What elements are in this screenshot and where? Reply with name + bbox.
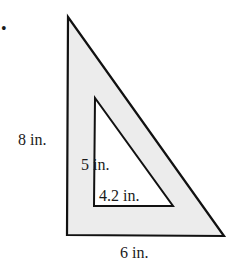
outer-base-label: 6 in. (120, 244, 148, 261)
triangle-diagram: • 8 in. 6 in. 5 in. 4.2 in. (0, 0, 233, 275)
inner-base-label: 4.2 in. (99, 187, 139, 204)
outer-height-label: 8 in. (18, 131, 46, 148)
inner-height-label: 5 in. (81, 156, 109, 173)
bullet-marker: • (1, 20, 7, 37)
